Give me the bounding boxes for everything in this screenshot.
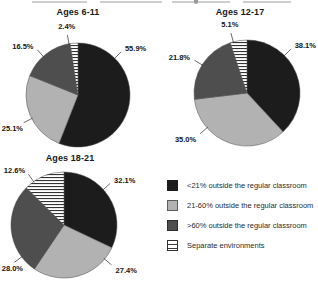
- legend-label: 21-60% outside the regular classroom: [187, 201, 313, 210]
- legend: <21% outside the regular classroom 21-60…: [167, 180, 313, 260]
- legend-item-lt21: <21% outside the regular classroom: [167, 180, 313, 191]
- figure-canvas: Ages 6-11 Ages 12-17 Ages 18-21 55.9%25.…: [0, 0, 318, 283]
- legend-item-gt60: >60% outside the regular classroom: [167, 220, 313, 231]
- pie1-label-line-separate: [67, 35, 69, 45]
- pie-ages-6-11: 55.9%25.1%16.5%2.4%: [2, 22, 147, 147]
- pie2-label-line-gt60: [194, 60, 202, 65]
- pie1-label-line-lt21: [114, 52, 121, 59]
- pie1-value-label-separate: 2.4%: [58, 22, 75, 31]
- pie3-label-line-21-60: [104, 258, 112, 264]
- legend-label: >60% outside the regular classroom: [187, 221, 307, 230]
- pie2-value-label-separate: 5.1%: [221, 20, 238, 29]
- pie3-label-line-gt60: [14, 256, 22, 262]
- pie3-label-line-separate: [28, 174, 34, 182]
- legend-swatch-black: [167, 180, 178, 191]
- pie-ages-18-21: 32.1%27.4%28.0%12.6%: [2, 166, 137, 278]
- pie3-value-label-separate: 12.6%: [4, 166, 26, 175]
- pie3-label-line-lt21: [103, 184, 110, 191]
- pie1-value-label-gt60: 16.5%: [12, 42, 34, 51]
- pie2-value-label-lt21: 38.1%: [295, 41, 317, 50]
- pie2-value-label-gt60: 21.8%: [169, 53, 191, 62]
- pie1-label-line-21-60: [24, 118, 33, 123]
- legend-item-separate: Separate environments: [167, 240, 313, 251]
- pie2-label-line-separate: [231, 33, 234, 43]
- pie1-value-label-21-60: 25.1%: [2, 124, 24, 133]
- legend-swatch-striped: [167, 240, 178, 251]
- pie2-value-label-21-60: 35.0%: [175, 135, 197, 144]
- pie3-value-label-21-60: 27.4%: [116, 266, 138, 275]
- pie1-value-label-lt21: 55.9%: [125, 44, 147, 53]
- legend-swatch-light-gray: [167, 200, 178, 211]
- pie1-label-line-gt60: [37, 50, 44, 57]
- pie3-value-label-gt60: 28.0%: [2, 264, 24, 273]
- pie2-label-line-21-60: [200, 127, 208, 134]
- pie2-label-line-lt21: [284, 49, 291, 56]
- legend-item-21-60: 21-60% outside the regular classroom: [167, 200, 313, 211]
- legend-label: Separate environments: [187, 241, 265, 250]
- pie3-value-label-lt21: 32.1%: [114, 176, 136, 185]
- pie-ages-12-17: 38.1%35.0%21.8%5.1%: [169, 20, 317, 146]
- legend-label: <21% outside the regular classroom: [187, 181, 307, 190]
- legend-swatch-dark-gray: [167, 220, 178, 231]
